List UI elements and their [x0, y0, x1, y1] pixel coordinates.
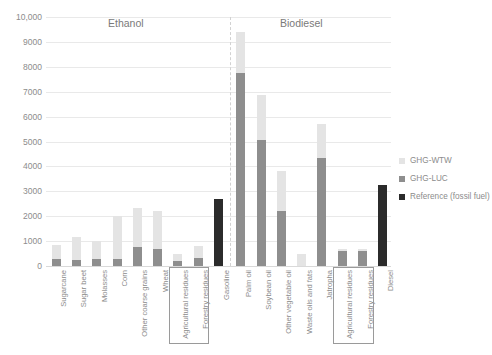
bar-segment-ghg-luc — [92, 259, 101, 266]
bar-segment-ghg-wtw — [297, 254, 306, 266]
bar-other-vegetable-oil — [277, 171, 286, 266]
y-axis-tick-label: 5000 — [0, 138, 42, 147]
legend-item: GHG-LUC — [399, 174, 492, 183]
x-axis-tick-label: Sugar beet — [79, 270, 88, 307]
legend-swatch-icon — [399, 194, 405, 200]
bar-segment-ghg-luc — [194, 258, 203, 266]
bar-segment-ghg-luc — [133, 247, 142, 266]
legend-label: GHG-LUC — [410, 174, 448, 183]
bar-segment-ghg-wtw — [113, 216, 122, 258]
bar-gasoline — [214, 199, 223, 266]
bar-segment-ghg-luc — [277, 211, 286, 266]
y-axis-tick-label: 6000 — [0, 113, 42, 122]
bar-segment-ghg-luc — [358, 251, 367, 266]
bar-segment-ghg-luc — [72, 260, 81, 266]
highlight-box — [169, 267, 210, 344]
bar-segment-reference — [214, 199, 223, 266]
x-axis-tick-label: Other coarse grains — [140, 270, 149, 337]
highlight-box — [333, 267, 374, 344]
bar-agricultural-residues — [173, 254, 182, 266]
bar-segment-ghg-luc — [153, 249, 162, 266]
y-axis-tick-label: 0 — [0, 262, 42, 271]
bar-segment-reference — [378, 185, 387, 266]
bar-segment-ghg-luc — [257, 140, 266, 266]
x-axis-tick-label: Corn — [120, 270, 129, 286]
y-axis-tick-label: 4000 — [0, 162, 42, 171]
bar-segment-ghg-wtw — [52, 245, 61, 259]
section-title: Ethanol — [108, 17, 144, 29]
bar-waste-oils-and-fats — [297, 254, 306, 266]
bar-segment-ghg-luc — [113, 259, 122, 266]
x-axis-tick-label: Gasoline — [222, 270, 231, 300]
bar-other-coarse-grains — [133, 208, 142, 267]
bar-forestry-residues — [358, 249, 367, 266]
bar-segment-ghg-wtw — [257, 95, 266, 140]
bar-segment-ghg-wtw — [173, 254, 182, 261]
plot-bars — [46, 17, 391, 266]
bar-segment-ghg-luc — [236, 73, 245, 266]
bar-wheat — [153, 211, 162, 266]
y-axis-tick-label: 9000 — [0, 38, 42, 47]
y-axis-tick-label: 2000 — [0, 212, 42, 221]
y-axis-tick-label: 3000 — [0, 187, 42, 196]
x-axis-tick-label: Sugarcane — [59, 270, 68, 307]
legend-label: Reference (fossil fuel) — [410, 192, 490, 201]
bar-molasses — [92, 241, 101, 266]
bar-segment-ghg-wtw — [92, 241, 101, 259]
bar-corn — [113, 216, 122, 266]
x-axis-tick-label: Diesel — [386, 270, 395, 291]
y-axis-tick-label: 10,000 — [0, 13, 42, 22]
bar-segment-ghg-luc — [317, 158, 326, 266]
bar-segment-ghg-wtw — [133, 208, 142, 248]
bar-segment-ghg-wtw — [277, 171, 286, 211]
bar-forestry-residues — [194, 246, 203, 266]
section-title: Biodiesel — [280, 17, 323, 29]
bar-segment-ghg-wtw — [317, 124, 326, 158]
chart-legend: GHG-WTWGHG-LUCReference (fossil fuel) — [399, 156, 492, 210]
x-axis-tick-label: Waste oils and fats — [305, 270, 314, 334]
legend-label: GHG-WTW — [410, 156, 452, 165]
x-axis-tick-label: Palm oil — [244, 270, 253, 297]
bar-diesel — [378, 185, 387, 266]
bar-soybean-oil — [257, 95, 266, 266]
bar-segment-ghg-luc — [338, 251, 347, 266]
bar-segment-ghg-wtw — [236, 32, 245, 73]
bar-sugar-beet — [72, 237, 81, 266]
bar-jatropha — [317, 124, 326, 266]
y-axis-labels: 10,0009000800070006000500040003000200010… — [0, 17, 42, 266]
y-axis-tick-label: 8000 — [0, 63, 42, 72]
bar-segment-ghg-luc — [173, 261, 182, 266]
legend-item: Reference (fossil fuel) — [399, 192, 492, 201]
y-axis-tick-label: 7000 — [0, 88, 42, 97]
x-axis-tick-label: Molasses — [100, 270, 109, 302]
legend-swatch-icon — [399, 158, 405, 164]
x-axis-tick-label: Other vegetable oil — [284, 270, 293, 334]
bar-segment-ghg-luc — [52, 259, 61, 266]
y-axis-tick-label: 1000 — [0, 237, 42, 246]
bar-palm-oil — [236, 32, 245, 266]
x-axis-tick-label: Soybean oil — [264, 270, 273, 310]
bar-segment-ghg-wtw — [194, 246, 203, 258]
bar-agricultural-residues — [338, 249, 347, 266]
bar-segment-ghg-wtw — [72, 237, 81, 259]
section-divider — [230, 17, 231, 266]
bar-sugarcane — [52, 245, 61, 266]
ghg-emissions-bar-chart: 10,0009000800070006000500040003000200010… — [0, 0, 492, 355]
legend-item: GHG-WTW — [399, 156, 492, 165]
bar-segment-ghg-wtw — [153, 211, 162, 248]
legend-swatch-icon — [399, 176, 405, 182]
